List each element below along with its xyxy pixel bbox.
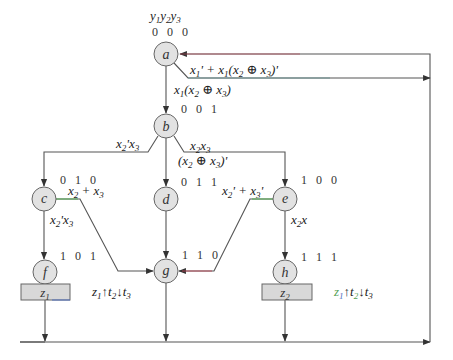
asm-chart: y1y2y3	[0, 0, 453, 360]
cond-b-to-c: x2'x3	[115, 136, 140, 153]
output-box-z1: z1	[21, 284, 70, 302]
state-variable-header: y1y2y3	[148, 8, 181, 25]
code-g: 1 1 0	[182, 248, 221, 262]
svg-text:c: c	[41, 191, 48, 206]
state-a: a	[154, 42, 178, 66]
annotation-g: z1↑t2↓t3	[91, 284, 131, 301]
svg-text:d: d	[163, 192, 171, 207]
code-d: 0 1 1	[181, 175, 220, 189]
cond-a-self: x1' + x1(x2 ⊕ x3)'	[189, 62, 278, 79]
cond-e-to-h: x2x	[290, 212, 307, 229]
svg-text:a: a	[163, 47, 170, 62]
code-f: 1 0 1	[60, 249, 99, 263]
code-e: 1 0 0	[301, 173, 340, 187]
svg-text:h: h	[282, 265, 289, 280]
state-b: b	[154, 114, 178, 138]
code-b: 0 0 1	[181, 102, 220, 116]
cond-a-to-b: x1(x2 ⊕ x3)	[173, 82, 231, 99]
code-h: 1 1 1	[301, 250, 340, 264]
annotation-h: z1↑t2↓t3	[333, 284, 373, 301]
state-c: c	[32, 187, 56, 211]
code-a: 0 0 0	[152, 25, 191, 39]
state-h: h	[273, 260, 297, 284]
state-d: d	[154, 187, 178, 211]
state-e: e	[273, 187, 297, 211]
cond-e-to-g: x2' + x3'	[221, 183, 264, 200]
cond-c-to-g: x2 + x3	[67, 183, 104, 200]
svg-text:b: b	[163, 119, 170, 134]
svg-text:e: e	[282, 191, 288, 206]
cond-b-to-d: (x2 ⊕ x3)'	[178, 153, 228, 170]
cond-c-to-f: x2'x3	[49, 212, 74, 229]
state-g: g	[154, 259, 178, 283]
state-f: f	[33, 260, 57, 284]
svg-text:g: g	[163, 263, 170, 278]
output-box-z2: z2	[262, 284, 312, 302]
